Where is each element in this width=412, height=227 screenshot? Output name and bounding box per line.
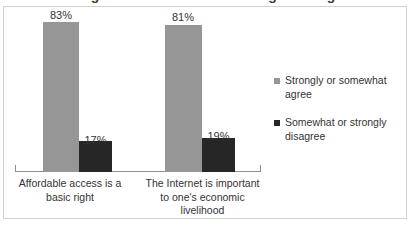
category-label-group2-line2: to one's economic — [160, 191, 244, 203]
category-label-group1-line1: Affordable access is a — [19, 177, 122, 189]
category-label-group2: The Internet is important to one's econo… — [137, 177, 268, 218]
legend-marker-disagree-icon — [274, 120, 280, 126]
category-label-group1: Affordable access is a basic right — [6, 177, 134, 204]
legend-marker-agree-icon — [274, 78, 280, 84]
category-label-group2-line1: The Internet is important — [146, 177, 260, 189]
x-axis-tick-left — [15, 165, 16, 172]
bar-group2-disagree[interactable] — [202, 138, 235, 172]
chart-legend: Strongly or somewhat agree Somewhat or s… — [274, 74, 404, 158]
x-axis-tick-right — [260, 165, 261, 172]
chart-screenshot: Rights and Goods for Making a Living 83%… — [0, 0, 412, 227]
bar-group2-agree[interactable] — [165, 25, 202, 172]
legend-item-disagree[interactable]: Somewhat or strongly disagree — [274, 116, 404, 143]
legend-label-disagree: Somewhat or strongly disagree — [285, 116, 387, 142]
legend-label-agree: Strongly or somewhat agree — [285, 74, 387, 100]
bar-value-label-group1-disagree: 17% — [77, 134, 114, 146]
bar-group1-agree[interactable] — [43, 22, 79, 172]
bar-value-label-group2-disagree: 19% — [200, 130, 237, 142]
bar-value-label-group1-agree: 83% — [43, 9, 79, 21]
bar-value-label-group2-agree: 81% — [164, 11, 202, 23]
category-label-group1-line2: basic right — [46, 191, 94, 203]
category-label-group2-line3: livelihood — [181, 204, 225, 216]
plot-area: 83% 17% 81% 19% Affordable access is a b… — [0, 0, 412, 227]
legend-item-agree[interactable]: Strongly or somewhat agree — [274, 74, 404, 101]
